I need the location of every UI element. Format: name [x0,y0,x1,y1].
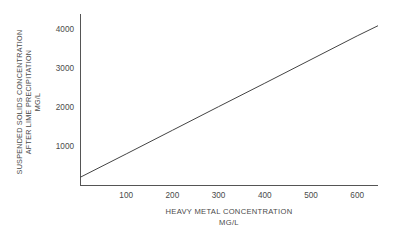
x-tick-label: 400 [258,192,272,200]
x-tick-label: 500 [304,192,318,200]
x-axis-tick-labels: 100200300400500600 [0,0,397,235]
x-axis-title: HEAVY METAL CONCENTRATION MG/L [80,206,378,228]
x-axis-title-units: MG/L [80,217,378,228]
x-tick-label: 200 [166,192,180,200]
x-axis-title-line-1: HEAVY METAL CONCENTRATION [80,206,378,217]
chart-figure: SUSPENDED SOLIDS CONCENTRATION AFTER LIM… [0,0,397,235]
x-tick-label: 100 [119,192,133,200]
x-tick-label: 300 [212,192,226,200]
x-tick-label: 600 [350,192,364,200]
